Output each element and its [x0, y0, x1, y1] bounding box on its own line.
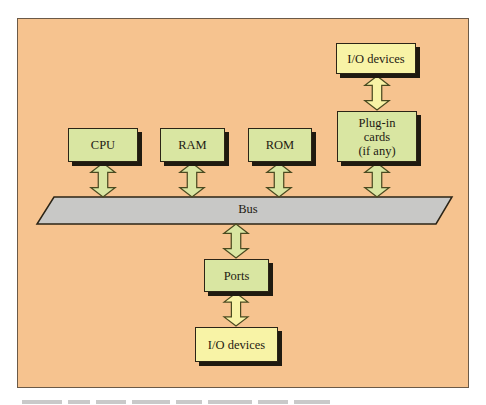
io-plugin-arrow-icon	[365, 76, 390, 110]
io-devices-bottom-label: I/O devices	[208, 338, 265, 352]
plugin-cards-box: Plug-in cards (if any)	[337, 111, 417, 162]
cpu-box: CPU	[68, 128, 138, 162]
io-devices-top-label: I/O devices	[347, 52, 404, 66]
bus-label: Bus	[228, 202, 268, 217]
ram-label: RAM	[178, 138, 206, 152]
ports-box: Ports	[204, 259, 269, 292]
cpu-bus-arrow-icon	[91, 163, 116, 197]
ram-box: RAM	[160, 128, 225, 162]
io-devices-top-box: I/O devices	[336, 43, 416, 74]
plugin-cards-label-line2: cards	[364, 130, 390, 144]
plugin-cards-label-line3: (if any)	[358, 144, 395, 158]
rom-bus-arrow-icon	[267, 163, 292, 197]
ports-label: Ports	[224, 269, 250, 283]
rom-label: ROM	[266, 138, 294, 152]
figure-caption-cutoff	[20, 398, 350, 405]
plugin-bus-arrow-icon	[365, 163, 390, 197]
io-devices-bottom-box: I/O devices	[195, 327, 278, 362]
bus-ports-arrow-icon	[224, 224, 249, 258]
cpu-label: CPU	[91, 138, 115, 152]
plugin-cards-label-line1: Plug-in	[359, 116, 396, 130]
ports-io-arrow-icon	[224, 293, 248, 326]
rom-box: ROM	[248, 128, 312, 162]
ram-bus-arrow-icon	[180, 163, 205, 197]
